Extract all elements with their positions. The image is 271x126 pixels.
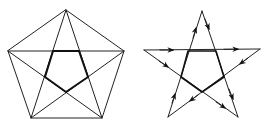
pentagon-with-star: [8, 10, 124, 118]
arrow-icon: [159, 61, 168, 67]
arrow-icon: [240, 58, 248, 64]
arrow-heads: [159, 19, 248, 108]
arrow-icon: [190, 95, 198, 101]
arrow-icon: [172, 94, 175, 103]
inner-pentagon: [45, 51, 88, 92]
directed-pentagram: [144, 11, 260, 117]
arrow-icon: [193, 28, 196, 38]
arrow-icon: [216, 102, 225, 108]
star-edges: [144, 11, 260, 117]
arrow-icon: [205, 19, 209, 29]
diagram-canvas: [0, 0, 271, 126]
